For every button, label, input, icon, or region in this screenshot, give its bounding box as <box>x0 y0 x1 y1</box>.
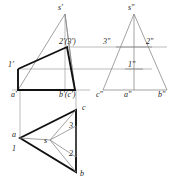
label-s-prime: s' <box>58 4 63 12</box>
label-c-top: c <box>82 104 86 112</box>
label-b-c-prime: b'(c') <box>59 91 75 99</box>
label-1-prime: 1' <box>8 61 14 69</box>
label-s-top: s <box>44 137 47 145</box>
label-1-top: 1 <box>12 145 16 153</box>
projection-drawing: s' 2'(3') 1' a' b'(c') s" 3" 2" 1" c" a"… <box>0 0 180 190</box>
projection-canvas <box>0 0 180 190</box>
label-b-top: b <box>80 170 84 178</box>
label-a-prime: a' <box>11 91 17 99</box>
label-2-3-prime: 2'(3') <box>59 38 76 46</box>
label-a-double-prime: a" <box>124 91 131 99</box>
label-3-double-prime: 3" <box>103 38 110 46</box>
side-view-outline <box>103 14 167 90</box>
side-view-group <box>103 14 167 90</box>
label-a-top: a <box>12 131 16 139</box>
label-c-double-prime: c" <box>96 91 103 99</box>
label-1-double-prime: 1" <box>128 61 135 69</box>
label-2-top: 2 <box>69 150 73 158</box>
label-b-double-prime: b" <box>158 91 165 99</box>
label-3-top: 3 <box>69 122 73 130</box>
construction-lines <box>12 14 167 139</box>
label-s-double-prime: s" <box>128 4 134 12</box>
front-section-outline <box>18 47 75 90</box>
top-view-group <box>20 110 76 172</box>
label-2-double-prime: 2" <box>146 38 153 46</box>
front-view-group <box>18 14 75 90</box>
